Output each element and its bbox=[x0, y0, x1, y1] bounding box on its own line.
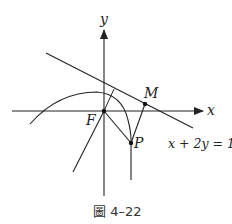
point-m-label: M bbox=[143, 85, 159, 101]
geometry-diagram: y x F M P x + 2y = 1 圖 4–22 bbox=[0, 0, 232, 224]
point-f bbox=[102, 109, 106, 113]
figure-caption: 圖 4–22 bbox=[93, 204, 141, 219]
focus-label: F bbox=[85, 112, 97, 128]
line-equation-label: x + 2y = 1 bbox=[168, 136, 232, 151]
point-m bbox=[143, 102, 147, 106]
point-p bbox=[129, 141, 133, 145]
x-axis-label: x bbox=[207, 102, 215, 118]
line-x-plus-2y-eq-1 bbox=[46, 53, 193, 128]
perpendicular-segment bbox=[104, 89, 114, 111]
point-p-label: P bbox=[133, 135, 144, 151]
parabola-curve bbox=[30, 92, 131, 180]
y-axis-label: y bbox=[99, 11, 109, 27]
